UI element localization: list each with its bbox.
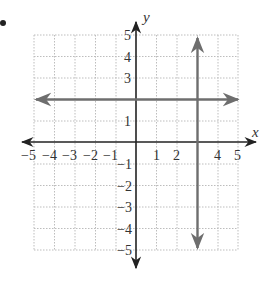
svg-text:−4: −4 bbox=[117, 222, 132, 237]
svg-text:1: 1 bbox=[153, 148, 160, 163]
svg-text:1: 1 bbox=[124, 114, 131, 129]
svg-text:−3: −3 bbox=[62, 148, 77, 163]
x-axis-label: x bbox=[251, 124, 259, 140]
svg-text:−3: −3 bbox=[117, 200, 132, 215]
svg-text:−1: −1 bbox=[117, 157, 132, 172]
svg-text:−2: −2 bbox=[83, 148, 98, 163]
svg-text:−4: −4 bbox=[42, 148, 57, 163]
svg-text:−2: −2 bbox=[117, 179, 132, 194]
y-tick-labels: 5 4 3 1 −1 −2 −3 −4 −5 bbox=[117, 28, 132, 258]
svg-text:3: 3 bbox=[124, 71, 131, 86]
svg-text:5: 5 bbox=[234, 148, 241, 163]
coordinate-graph: y x −5 −4 −3 −2 −1 1 2 4 5 5 4 3 1 −1 −2… bbox=[0, 0, 272, 283]
svg-text:−5: −5 bbox=[117, 243, 132, 258]
svg-text:4: 4 bbox=[214, 148, 221, 163]
y-axis-label: y bbox=[141, 9, 150, 25]
svg-text:2: 2 bbox=[173, 148, 180, 163]
svg-text:4: 4 bbox=[124, 50, 131, 65]
problem-bullet-icon bbox=[0, 20, 6, 26]
svg-text:5: 5 bbox=[124, 28, 131, 43]
svg-text:−5: −5 bbox=[21, 148, 36, 163]
svg-text:−1: −1 bbox=[103, 148, 118, 163]
